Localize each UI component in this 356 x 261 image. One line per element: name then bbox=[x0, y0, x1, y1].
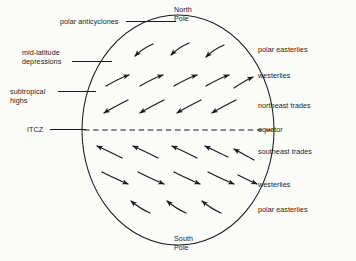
label-westerlies-south: westerlies bbox=[258, 180, 290, 189]
north-pole-label: North Pole bbox=[174, 5, 192, 23]
south-pole-label: South Pole bbox=[174, 234, 193, 252]
circulation-diagram: North Pole South Pole polar anticyclones… bbox=[0, 0, 356, 261]
label-westerlies-north: westerlies bbox=[258, 71, 290, 80]
label-equator: equator bbox=[258, 125, 283, 134]
diagram-canvas bbox=[0, 0, 356, 261]
label-subtropical-highs: subtropical highs bbox=[10, 87, 45, 105]
label-northeast-trades: northeast trades bbox=[258, 101, 311, 110]
arrows-polar-easterlies-south bbox=[131, 201, 221, 213]
label-polar-anticyclones: polar anticyclones bbox=[60, 17, 118, 26]
leader-lines bbox=[50, 22, 176, 130]
arrows-polar-easterlies-north bbox=[135, 43, 224, 57]
label-polar-easterlies-north: polar easterlies bbox=[258, 45, 308, 54]
label-southeast-trades: southeast trades bbox=[258, 147, 312, 156]
label-polar-easterlies-south: polar easterlies bbox=[258, 205, 308, 214]
arrows-northeast-trades bbox=[104, 100, 236, 113]
arrows-westerlies-south bbox=[102, 172, 257, 184]
arrows-southeast-trades bbox=[97, 146, 254, 160]
label-mid-latitude-depressions: mid-latitude depressions bbox=[22, 48, 61, 66]
label-itcz: ITCZ bbox=[27, 125, 43, 134]
arrows-westerlies-north bbox=[106, 75, 253, 88]
